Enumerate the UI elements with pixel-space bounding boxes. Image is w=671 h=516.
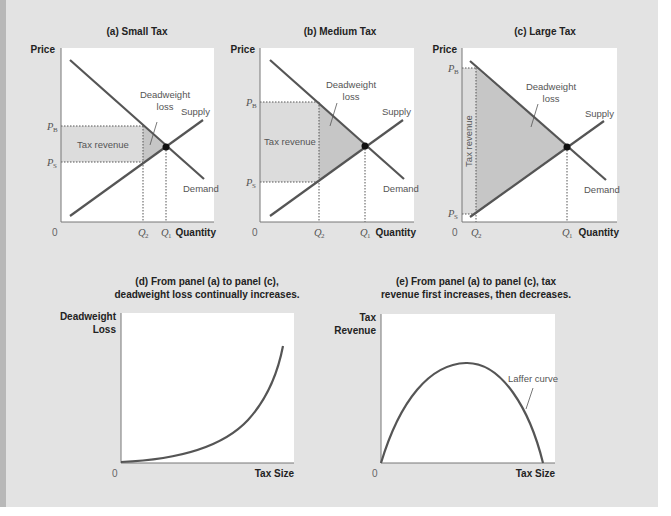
panel-c-xlabel: Quantity xyxy=(578,227,619,238)
panel-e: (e) From panel (a) to panel (c), tax rev… xyxy=(334,276,571,479)
panel-e-title-2: revenue first increases, then decreases. xyxy=(381,289,571,300)
panel-d-ylabel: Deadweight xyxy=(60,311,117,322)
panel-c-ylabel: Price xyxy=(433,44,458,55)
panel-d-ylabel-2: Loss xyxy=(93,324,117,335)
panel-e-zero: 0 xyxy=(372,468,378,479)
panel-e-title: (e) From panel (a) to panel (c), tax xyxy=(396,276,556,287)
panel-b-tax-revenue-label: Tax revenue xyxy=(264,136,316,147)
panel-c-ps-sub: S xyxy=(454,213,458,221)
panel-e-ylabel: Tax xyxy=(360,312,377,323)
panel-b-xlabel: Quantity xyxy=(375,227,416,238)
figure-svg: (a) Small Tax Price Deadweight loss Tax … xyxy=(0,0,671,516)
panel-e-plot-area xyxy=(381,314,555,463)
panel-c-dwl-label-2: loss xyxy=(543,93,560,104)
panel-b-q2-sub: 2 xyxy=(321,232,325,240)
panel-a-xlabel: Quantity xyxy=(175,227,216,238)
panel-b-q1-sub: 1 xyxy=(367,232,371,240)
panel-c-q2-sub: 2 xyxy=(478,232,482,240)
panel-a-dwl-label-2: loss xyxy=(157,101,174,112)
panel-b-demand-label: Demand xyxy=(383,183,419,194)
panel-a-supply-label: Supply xyxy=(181,106,210,117)
panel-a-q2-sub: 2 xyxy=(145,232,149,240)
panel-d-title-2: deadweight loss continually increases. xyxy=(114,289,299,300)
panel-d-plot-area xyxy=(121,313,294,463)
panel-a-ps-sub: S xyxy=(53,162,57,170)
panel-c-tax-revenue-label: Tax revenue xyxy=(463,115,474,167)
panel-c-dwl-label: Deadweight xyxy=(526,81,577,92)
panel-b-ps-sub: S xyxy=(252,182,256,190)
panel-a-demand-label: Demand xyxy=(183,183,219,194)
panel-a-q1-sub: 1 xyxy=(168,232,172,240)
panel-a-title: (a) Small Tax xyxy=(107,26,168,37)
panel-d-xlabel: Tax Size xyxy=(255,468,295,479)
panel-a-equilibrium-point xyxy=(163,144,170,151)
panel-c: (c) Large Tax Price Deadweight loss Tax … xyxy=(433,26,620,240)
panel-b-ylabel: Price xyxy=(231,44,256,55)
panel-b: (b) Medium Tax Price Deadweight loss Tax… xyxy=(231,26,419,240)
panel-d-zero: 0 xyxy=(112,468,118,479)
panel-d-title: (d) From panel (a) to panel (c), xyxy=(135,276,279,287)
panel-c-supply-label: Supply xyxy=(585,108,614,119)
panel-a-tax-revenue-label: Tax revenue xyxy=(77,139,129,150)
panel-a-ylabel: Price xyxy=(31,44,56,55)
panel-a-pb-sub: B xyxy=(53,126,58,134)
panel-b-equilibrium-point xyxy=(362,143,369,150)
panel-b-dwl-label-2: loss xyxy=(343,91,360,102)
panel-c-demand-label: Demand xyxy=(584,184,620,195)
panel-b-pb-sub: B xyxy=(252,102,257,110)
panel-b-title: (b) Medium Tax xyxy=(304,26,377,37)
panel-b-dwl-label: Deadweight xyxy=(326,79,377,90)
panel-d: (d) From panel (a) to panel (c), deadwei… xyxy=(60,276,300,479)
panel-c-pb-sub: B xyxy=(454,68,459,76)
panel-a-dwl-label: Deadweight xyxy=(140,89,191,100)
panel-b-zero: 0 xyxy=(252,227,258,238)
panel-e-laffer-label: Laffer curve xyxy=(508,373,558,384)
panel-b-supply-label: Supply xyxy=(382,106,411,117)
panel-c-zero: 0 xyxy=(452,227,458,238)
panel-a: (a) Small Tax Price Deadweight loss Tax … xyxy=(31,26,219,240)
panel-c-equilibrium-point xyxy=(564,144,571,151)
panel-c-title: (c) Large Tax xyxy=(514,26,576,37)
panel-e-xlabel: Tax Size xyxy=(516,468,556,479)
panel-e-ylabel-2: Revenue xyxy=(334,325,376,336)
panel-a-zero: 0 xyxy=(52,227,58,238)
panel-c-q1-sub: 1 xyxy=(569,232,573,240)
